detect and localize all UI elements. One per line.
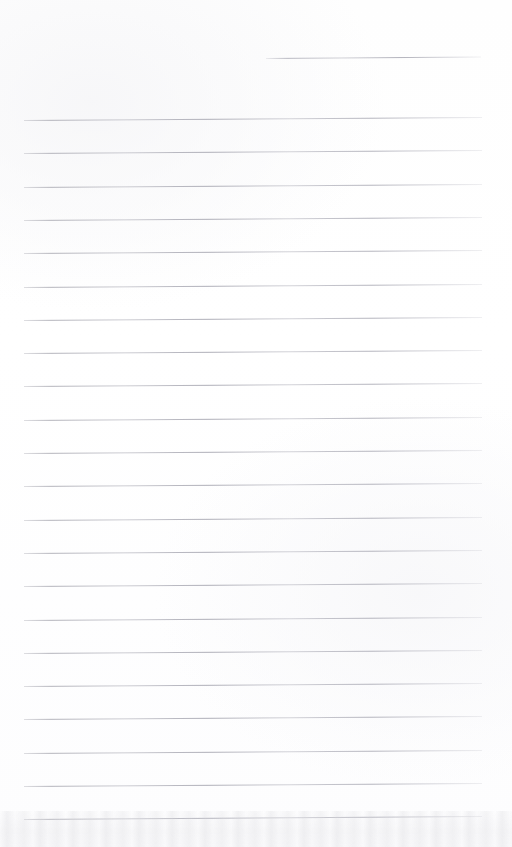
ruled-line bbox=[24, 317, 482, 321]
ruled-line bbox=[24, 783, 482, 787]
ruled-line bbox=[24, 750, 482, 754]
ruled-line bbox=[24, 650, 482, 654]
ruled-line bbox=[24, 117, 482, 121]
ruled-line bbox=[24, 350, 482, 354]
ruled-lines-layer bbox=[0, 0, 512, 847]
ruled-line bbox=[24, 716, 482, 720]
ruled-line bbox=[24, 483, 482, 487]
ruled-line bbox=[24, 683, 482, 687]
scanned-notebook-page bbox=[0, 0, 512, 847]
ruled-line bbox=[24, 150, 482, 154]
ruled-line bbox=[24, 517, 482, 521]
ruled-line bbox=[24, 283, 482, 287]
ruled-line bbox=[24, 816, 482, 820]
ruled-line bbox=[24, 417, 482, 421]
ruled-line bbox=[24, 383, 482, 387]
ruled-line bbox=[24, 616, 482, 620]
ruled-line bbox=[24, 550, 482, 554]
ruled-line bbox=[24, 217, 482, 221]
ruled-line bbox=[24, 583, 482, 587]
ruled-line bbox=[24, 250, 482, 254]
ruled-line bbox=[24, 450, 482, 454]
ruled-line-partial bbox=[266, 57, 481, 59]
ruled-line bbox=[24, 184, 482, 188]
